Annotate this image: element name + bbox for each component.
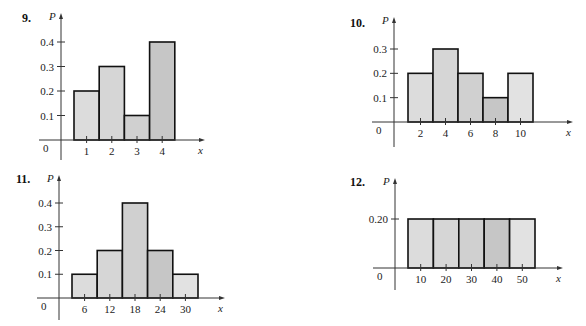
- problem-number: 11.: [16, 172, 30, 186]
- x-tick-label: 2: [418, 127, 424, 139]
- origin-label: 0: [377, 270, 383, 282]
- x-tick-label: 2: [109, 145, 115, 157]
- x-tick-label: 3: [134, 145, 140, 157]
- x-tick-label: 18: [130, 303, 142, 315]
- chart-9: 9.Px00.10.20.30.41234: [22, 10, 205, 160]
- y-tick-label: 0.1: [40, 110, 54, 122]
- x-axis-label: x: [555, 272, 561, 284]
- y-axis-label: P: [48, 10, 56, 22]
- origin-label: 0: [41, 300, 47, 312]
- x-tick-label: 6: [82, 303, 88, 315]
- origin-label: 0: [376, 124, 382, 136]
- histogram-bar: [458, 73, 483, 122]
- x-tick-label: 10: [515, 127, 527, 139]
- histogram-bar: [74, 91, 99, 140]
- x-tick-label: 24: [155, 303, 167, 315]
- x-axis-arrow-icon: [219, 296, 225, 300]
- y-tick-label: 0.2: [40, 85, 54, 97]
- y-axis-label: P: [382, 175, 390, 187]
- y-axis-label: P: [381, 14, 389, 26]
- histogram-bar: [408, 73, 433, 122]
- y-tick-label: 0.1: [38, 268, 52, 280]
- y-tick-label: 0.2: [373, 67, 387, 79]
- x-tick-label: 4: [443, 127, 449, 139]
- histogram-bar: [408, 219, 433, 268]
- histogram-bar: [510, 219, 535, 268]
- y-tick-label: 0.3: [40, 61, 54, 73]
- histogram-bar: [484, 219, 509, 268]
- x-tick-label: 12: [104, 303, 115, 315]
- x-tick-label: 40: [491, 273, 503, 285]
- y-tick-label: 0.20: [369, 213, 389, 225]
- y-axis-label: P: [46, 172, 54, 184]
- problem-number: 12.: [350, 175, 365, 189]
- histogram-bar: [508, 73, 533, 122]
- x-tick-label: 20: [441, 273, 453, 285]
- x-tick-label: 30: [466, 273, 478, 285]
- x-axis-label: x: [565, 126, 571, 138]
- x-tick-label: 1: [84, 145, 90, 157]
- origin-label: 0: [43, 142, 49, 154]
- x-tick-label: 10: [415, 273, 427, 285]
- chart-12: 12.Px00.201020304050: [350, 175, 563, 290]
- y-axis-arrow-icon: [57, 175, 61, 181]
- y-axis-arrow-icon: [393, 178, 397, 184]
- y-tick-label: 0.2: [38, 245, 52, 257]
- problem-number: 10.: [350, 16, 365, 30]
- histogram-bar: [99, 67, 124, 141]
- histogram-bar: [433, 49, 458, 122]
- x-axis-arrow-icon: [557, 266, 563, 270]
- histogram-bar: [97, 251, 122, 299]
- y-axis-arrow-icon: [59, 13, 63, 19]
- x-tick-label: 4: [159, 145, 165, 157]
- chart-10: 10.Px00.10.20.3246810: [350, 14, 573, 147]
- x-tick-label: 30: [180, 303, 192, 315]
- histogram-figure: 9.Px00.10.20.30.4123410.Px00.10.20.32468…: [0, 0, 586, 326]
- histogram-bar: [459, 219, 484, 268]
- y-tick-label: 0.1: [373, 92, 387, 104]
- x-tick-label: 50: [517, 273, 529, 285]
- histogram-bar: [148, 251, 173, 299]
- histogram-bar: [122, 203, 147, 298]
- y-tick-label: 0.3: [373, 43, 387, 55]
- y-tick-label: 0.3: [38, 221, 52, 233]
- histogram-bar: [150, 42, 175, 140]
- x-axis-arrow-icon: [567, 120, 573, 124]
- x-axis-label: x: [197, 144, 203, 156]
- y-tick-label: 0.4: [38, 197, 52, 209]
- y-axis-arrow-icon: [392, 17, 396, 23]
- x-axis-arrow-icon: [199, 138, 205, 142]
- histogram-bar: [433, 219, 458, 268]
- chart-11: 11.Px00.10.20.30.4612182430: [16, 172, 225, 320]
- x-tick-label: 8: [493, 127, 499, 139]
- x-tick-label: 6: [468, 127, 474, 139]
- problem-number: 9.: [22, 11, 31, 25]
- x-axis-label: x: [217, 302, 223, 314]
- y-tick-label: 0.4: [40, 36, 54, 48]
